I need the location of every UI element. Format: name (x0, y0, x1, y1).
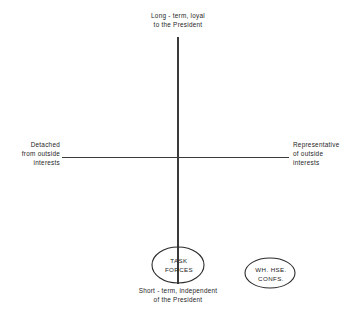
node-label-wh-hse-confs: WH. HSE. CONFS. (245, 265, 297, 283)
axis-label-top: Long - term, loyal to the President (118, 11, 238, 29)
node-label-task-forces: TASK FORCES (152, 256, 206, 274)
axis-label-bottom: Short - term, independent of the Preside… (108, 286, 248, 304)
axis-label-left: Detached from outside interests (8, 140, 60, 168)
axis-label-right: Representative of outside interests (293, 140, 353, 168)
diagram-canvas: Long - term, loyal to the President Shor… (0, 0, 355, 316)
